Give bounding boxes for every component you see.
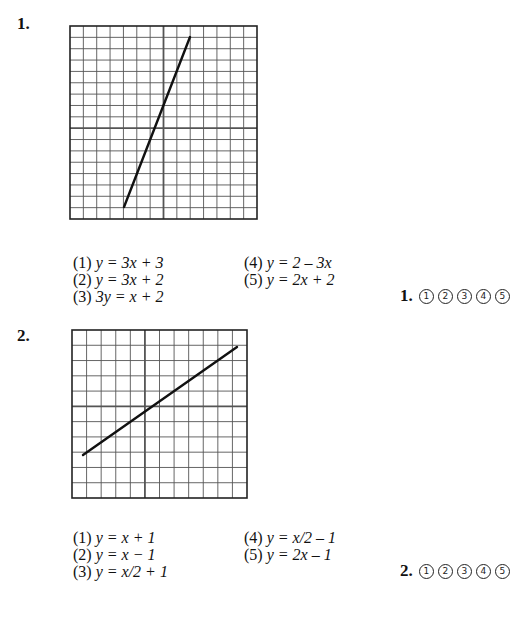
bubble-5[interactable]: 5 [495, 564, 510, 579]
choice-label: (2) [73, 546, 92, 563]
choice-label: (4) [244, 529, 263, 546]
bubble-1[interactable]: 1 [419, 564, 434, 579]
q2-choice-5: (5) y = 2x – 1 [244, 547, 332, 563]
bubble-4[interactable]: 4 [476, 564, 491, 579]
q2-choice-4: (4) y = x/2 – 1 [244, 530, 336, 546]
choice-equation: y = x − 1 [96, 546, 156, 563]
bubble-2[interactable]: 2 [438, 564, 453, 579]
choice-equation: y = x + 1 [96, 529, 156, 546]
choice-label: (5) [244, 546, 263, 563]
choice-equation: y = x/2 + 1 [96, 563, 168, 580]
q2-choice-2: (2) y = x − 1 [73, 547, 155, 563]
q2-answer-bubbles: 2. 1 2 3 4 5 [400, 561, 514, 581]
choice-label: (1) [73, 529, 92, 546]
choice-equation: y = x/2 – 1 [267, 529, 336, 546]
choice-equation: y = 2x – 1 [267, 546, 332, 563]
bubble-3[interactable]: 3 [457, 564, 472, 579]
q2-choice-3: (3) y = x/2 + 1 [73, 564, 168, 580]
choice-label: (3) [73, 563, 92, 580]
answer-number: 2. [400, 561, 413, 581]
q2-choice-1: (1) y = x + 1 [73, 530, 155, 546]
